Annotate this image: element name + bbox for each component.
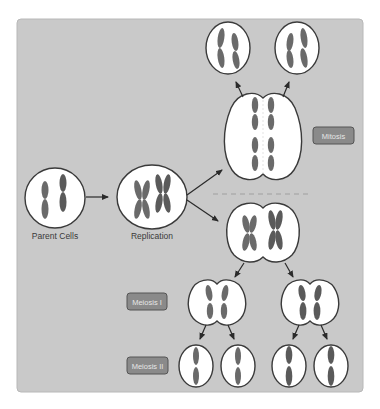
mitosis-daughter-cell bbox=[206, 22, 250, 74]
cell-division-diagram: Parent Cells Replication bbox=[0, 0, 380, 409]
meiosis-2-cell bbox=[221, 345, 255, 387]
meiosis-dividing-cell bbox=[227, 203, 300, 262]
mitosis-tag-label: Mitosis bbox=[322, 132, 346, 141]
parent-cell bbox=[25, 168, 85, 228]
meiosis-2-cell bbox=[314, 345, 348, 387]
meiosis-1-tag-label: Meiosis I bbox=[132, 298, 162, 307]
meiosis-2-tag: Meiosis II bbox=[127, 357, 168, 374]
mitosis-tag: Mitosis bbox=[313, 127, 354, 144]
meiosis-2-tag-label: Meiosis II bbox=[132, 362, 164, 371]
mitosis-daughter-cell bbox=[275, 22, 319, 74]
parent-cells-label: Parent Cells bbox=[32, 231, 78, 241]
meiosis-1-cell bbox=[281, 280, 338, 325]
meiosis-2-cell bbox=[179, 345, 213, 387]
meiosis-1-cell bbox=[188, 280, 245, 325]
meiosis-2-cell bbox=[272, 345, 306, 387]
meiosis-1-tag: Meiosis I bbox=[127, 293, 167, 310]
replication-cell bbox=[117, 165, 187, 229]
mitosis-dividing-cell bbox=[224, 93, 301, 179]
replication-label: Replication bbox=[131, 231, 173, 241]
